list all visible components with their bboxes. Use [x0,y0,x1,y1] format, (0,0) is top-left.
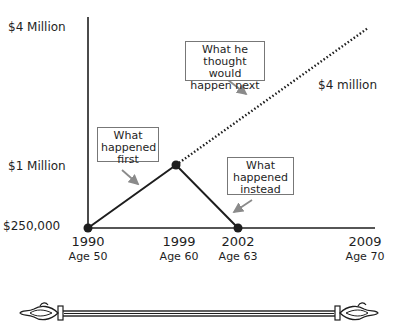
decorative-rod-icon [20,303,378,320]
point-1999 [172,161,181,170]
callout-line: instead [231,184,290,196]
callout-line: first [101,154,155,166]
y-label-250000: $250,000 [3,219,60,233]
callout-line: happen next [189,80,261,92]
x-label-1999: 1999 [154,234,204,249]
y-label-4-million: $4 Million [8,20,66,34]
x-label-2002: 2002 [213,234,263,249]
callout-what-happened-instead: What happened instead [227,157,294,195]
x-age-60: Age 60 [154,250,204,263]
projection-value-label: $4 million [318,78,377,92]
x-age-63: Age 63 [213,250,263,263]
x-age-70: Age 70 [340,250,390,263]
actual-series-line [88,165,238,228]
x-age-50: Age 50 [63,250,113,263]
y-label-1-million: $1 Million [8,159,66,173]
callout-what-he-thought: What he thought would happen next [185,41,265,81]
callout-line: thought would [189,56,261,80]
x-label-2009: 2009 [340,234,390,249]
point-2002 [234,224,243,233]
arrow-instead-icon [234,200,252,212]
arrow-first-icon [122,170,138,184]
point-1990 [84,224,93,233]
x-label-1990: 1990 [63,234,113,249]
callout-what-happened-first: What happened first [97,127,159,162]
